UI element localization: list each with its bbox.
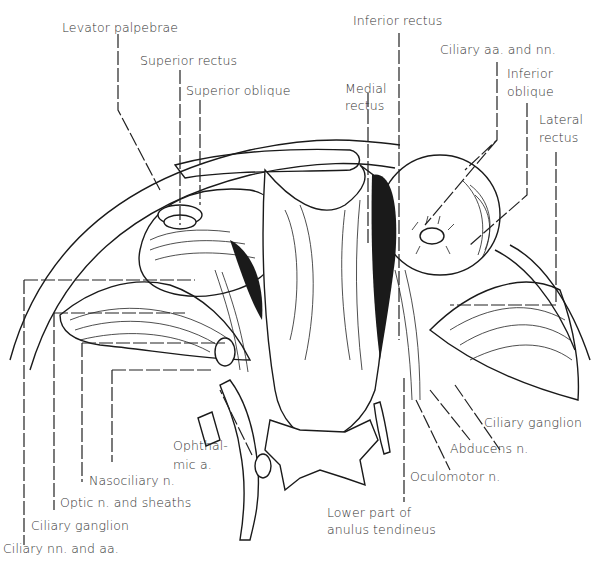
label-superior-oblique: Superior oblique	[186, 83, 291, 99]
label-inferior-oblique-line2: oblique	[507, 84, 554, 100]
label-oculomotor-n: Oculomotor n.	[410, 469, 500, 485]
label-anulus-line2: anulus tendineus	[327, 522, 436, 538]
label-ciliary-ganglion-left: Ciliary ganglion	[31, 518, 129, 534]
label-ophthalmic-a-line1: Ophthal-	[173, 438, 228, 454]
label-lateral-rectus-line2: rectus	[539, 130, 578, 146]
label-inferior-rectus: Inferior rectus	[353, 13, 442, 29]
label-abducens-n: Abducens n.	[450, 441, 528, 457]
label-anulus-line1: Lower part of	[327, 505, 411, 521]
label-superior-rectus: Superior rectus	[140, 53, 237, 69]
label-ophthalmic-a-line2: mic a.	[173, 457, 212, 473]
label-nasociliary-n: Nasociliary n.	[89, 473, 175, 489]
label-ciliary-ganglion-right: Ciliary ganglion	[484, 415, 582, 431]
label-ciliary-aa-nn: Ciliary aa. and nn.	[440, 42, 556, 58]
label-lateral-rectus-line1: Lateral	[539, 112, 583, 128]
label-medial-rectus-line2: rectus	[345, 98, 384, 114]
label-ciliary-nn-aa: Ciliary nn. and aa.	[3, 541, 119, 557]
label-inferior-oblique-line1: Inferior	[507, 66, 553, 82]
label-levator-palpebrae: Levator palpebrae	[62, 20, 178, 36]
label-medial-rectus-line1: Medial	[345, 81, 387, 97]
central-bone	[263, 165, 385, 490]
label-optic-n-sheaths: Optic n. and sheaths	[60, 495, 191, 511]
right-eyeball	[380, 155, 500, 275]
